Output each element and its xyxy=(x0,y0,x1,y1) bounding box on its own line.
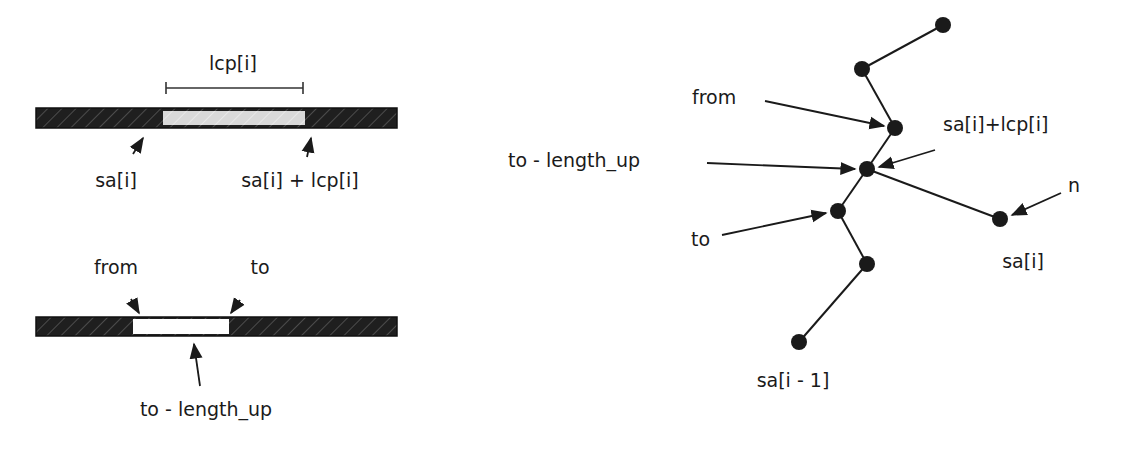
tree-node-to xyxy=(830,203,846,219)
suffix-tree-edges xyxy=(799,25,1000,342)
to-label-right: to xyxy=(691,228,710,250)
tree-node-from xyxy=(887,120,903,136)
to-minus-length-up-label-left: to - length_up xyxy=(140,398,272,421)
top-string-bar xyxy=(36,108,397,128)
bottom-string-bar xyxy=(36,317,397,336)
tree-node xyxy=(859,256,875,272)
from-to-highlight-segment xyxy=(133,319,229,334)
tree-node-branch xyxy=(859,161,875,177)
sa-i-label-right: sa[i] xyxy=(1002,250,1044,272)
tree-leaf-sa-i xyxy=(992,211,1008,227)
from-arrow-left xyxy=(131,299,139,313)
sa-i-plus-lcp-label: sa[i] + lcp[i] xyxy=(241,169,359,191)
diagram-canvas: lcp[i] sa[i] sa[i] + lcp[i] from to to -… xyxy=(0,0,1136,453)
to-minus-length-up-label-right: to - length_up xyxy=(508,149,640,172)
to-label-left: to xyxy=(250,256,269,278)
sa-i-arrow xyxy=(133,138,143,154)
n-arrow xyxy=(1012,193,1061,215)
from-arrow-right xyxy=(765,101,884,126)
tree-node-root xyxy=(935,17,951,33)
sa-i-label: sa[i] xyxy=(95,169,137,191)
sa-plus-lcp-arrow-right xyxy=(879,150,935,167)
tree-leaf-sa-i-minus-1 xyxy=(791,334,807,350)
to-minus-length-up-arrow-right xyxy=(707,163,855,169)
to-arrow-right xyxy=(722,213,826,235)
from-label-left: from xyxy=(94,256,138,278)
tree-node xyxy=(854,61,870,77)
to-minus-length-up-arrow-left xyxy=(194,344,200,386)
suffix-tree-nodes xyxy=(791,17,1008,350)
sa-i-minus-1-label: sa[i - 1] xyxy=(757,369,830,391)
sa-plus-lcp-label-right: sa[i]+lcp[i] xyxy=(943,113,1048,135)
n-label: n xyxy=(1068,174,1080,196)
lcp-bracket xyxy=(166,82,303,94)
lcp-highlight-segment xyxy=(163,111,305,125)
lcp-bracket-label: lcp[i] xyxy=(209,52,257,74)
from-label-right: from xyxy=(692,86,736,108)
to-arrow-left xyxy=(231,300,240,313)
sa-i-plus-lcp-arrow xyxy=(307,138,311,157)
